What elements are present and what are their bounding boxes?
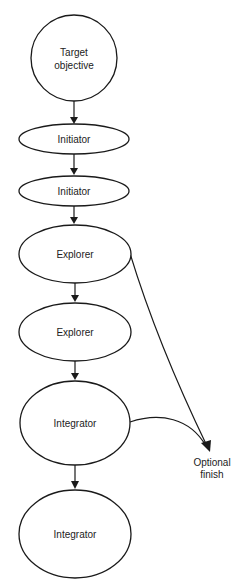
node-label-line2: objective — [54, 60, 94, 71]
node-explorer-1: Explorer — [19, 225, 131, 283]
edge-explorer1-to-explorer2 — [71, 283, 79, 302]
edge-initiator1-to-initiator2 — [70, 154, 78, 175]
node-label: Integrator — [54, 418, 97, 429]
node-label: Explorer — [56, 249, 94, 260]
optional-finish-arrowhead — [201, 440, 211, 452]
node-label: Initiator — [58, 186, 91, 197]
node-initiator-1: Initiator — [19, 124, 129, 154]
node-label: Integrator — [54, 529, 97, 540]
edge-explorer1-to-optional-finish — [129, 250, 207, 446]
node-label: Explorer — [56, 327, 94, 338]
edge-target-to-initiator1 — [70, 101, 78, 124]
node-integrator-1: Integrator — [20, 381, 130, 465]
edge-integrator1-to-optional-finish — [130, 417, 206, 446]
optional-finish-label: Optional finish — [193, 457, 230, 480]
edge-initiator2-to-explorer1 — [70, 206, 78, 224]
edge-explorer2-to-integrator1 — [71, 361, 79, 380]
optional-finish-line2: finish — [200, 469, 223, 480]
optional-finish-line1: Optional — [193, 457, 230, 468]
node-initiator-2: Initiator — [19, 176, 129, 206]
edge-integrator1-to-integrator2 — [71, 465, 79, 489]
node-target-objective: Target objective — [31, 15, 117, 101]
node-explorer-2: Explorer — [19, 303, 131, 361]
node-label: Initiator — [58, 134, 91, 145]
flow-diagram: Target objective Initiator Initiator Exp… — [0, 0, 242, 585]
node-integrator-2: Integrator — [19, 490, 131, 578]
node-label-line1: Target — [60, 47, 88, 58]
